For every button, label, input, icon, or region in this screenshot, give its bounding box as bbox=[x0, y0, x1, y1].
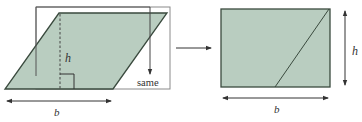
parallelogram-figure: h same b bbox=[5, 7, 170, 118]
rectangle-figure: h b bbox=[221, 9, 358, 115]
rectangle-shape bbox=[221, 9, 330, 87]
base-label: b bbox=[54, 106, 60, 118]
same-label: same bbox=[137, 77, 159, 88]
area-diagram: h same b h b bbox=[0, 0, 362, 122]
rect-base-label: b bbox=[274, 103, 280, 115]
rect-height-label: h bbox=[352, 44, 358, 58]
height-label: h bbox=[65, 51, 71, 65]
